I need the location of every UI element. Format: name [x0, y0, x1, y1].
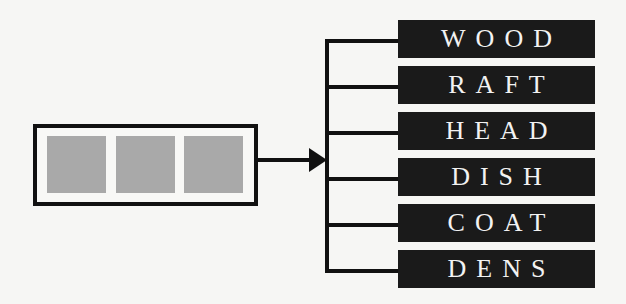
gray-slot-2 [116, 136, 175, 193]
branch-line-4 [325, 177, 398, 181]
label-box-2: RAFT [398, 66, 595, 104]
label-box-5: COAT [398, 204, 595, 242]
gray-slot-3 [184, 136, 243, 193]
connector-arrow-shaft [257, 158, 311, 162]
branch-line-6 [325, 269, 398, 273]
branch-trunk-line [325, 39, 329, 271]
label-box-1: WOOD [398, 20, 595, 58]
label-box-6: DENS [398, 250, 595, 288]
branch-line-3 [325, 131, 398, 135]
gray-slot-1 [47, 136, 106, 193]
branch-line-2 [325, 85, 398, 89]
branch-line-5 [325, 223, 398, 227]
label-box-4: DISH [398, 158, 595, 196]
label-box-3: HEAD [398, 112, 595, 150]
branch-line-1 [325, 39, 398, 43]
